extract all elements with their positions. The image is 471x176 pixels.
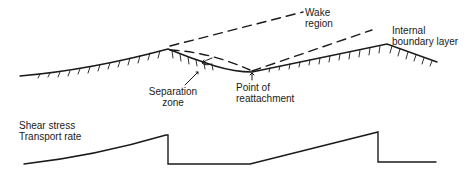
separation-streamline xyxy=(170,50,250,70)
point-of-reattachment-label: Point of reattachment xyxy=(236,82,294,104)
wake-region-label: Wake region xyxy=(305,7,333,29)
y-axis-label: Shear stress Transport rate xyxy=(19,120,81,142)
hatching-dune-2 xyxy=(269,46,432,72)
internal-boundary-layer-label: Internal boundary layer xyxy=(392,25,458,47)
ground-surface-line xyxy=(20,44,437,76)
separation-zone-label: Separation zone xyxy=(143,86,203,108)
wake-upper-boundary xyxy=(170,12,303,46)
hatching-dune-1 xyxy=(38,51,213,78)
separation-leader xyxy=(185,72,198,85)
shear-stress-curve xyxy=(24,132,436,164)
